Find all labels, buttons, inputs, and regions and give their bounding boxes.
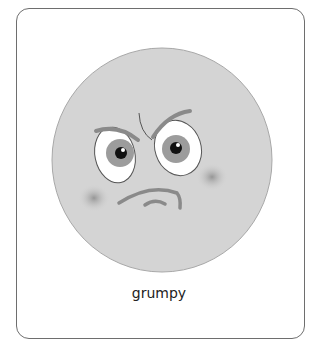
right-cheek-blush [196,163,228,191]
left-cheek-blush [78,184,110,212]
emotion-label: grumpy [0,285,318,301]
